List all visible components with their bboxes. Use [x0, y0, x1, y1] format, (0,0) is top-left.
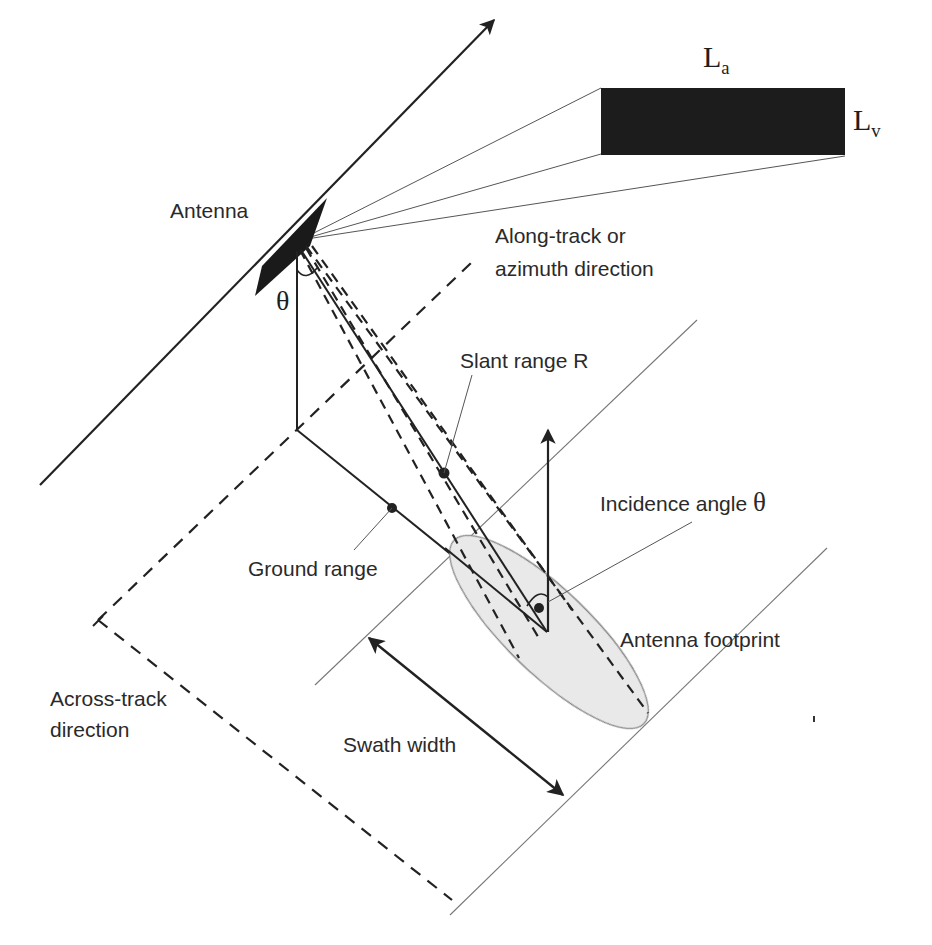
antenna-label: Antenna [170, 198, 248, 223]
ground-range-label: Ground range [248, 556, 378, 581]
look-angle-theta: θ [276, 285, 289, 317]
antenna-length-symbol: L [703, 40, 721, 73]
antenna-panel [601, 88, 845, 155]
across-track-direction-line [93, 616, 452, 900]
ground-range-marker [354, 503, 397, 550]
antenna-length-subscript: a [721, 57, 729, 78]
flight-path-arrow [40, 20, 494, 485]
antenna-height-label: Lv [853, 103, 881, 142]
incidence-angle-label: Incidence angle θ [600, 490, 766, 516]
sar-geometry-diagram [0, 0, 932, 945]
antenna-height-symbol: L [853, 103, 871, 136]
antenna-length-label: La [703, 40, 730, 79]
incidence-angle-text: Incidence angle [600, 492, 753, 515]
swath-width-label: Swath width [343, 732, 456, 757]
incidence-angle-leader [548, 522, 692, 602]
slant-range-marker [439, 375, 473, 479]
across-track-label-line2: direction [50, 717, 129, 742]
slant-range-label: Slant range R [460, 348, 588, 373]
across-track-label-line1: Across-track [50, 686, 167, 711]
along-track-label-line1: Along-track or [495, 223, 626, 248]
along-track-label-line2: azimuth direction [495, 256, 654, 281]
incidence-angle-theta: θ [753, 487, 766, 517]
antenna-footprint-label: Antenna footprint [620, 627, 780, 652]
antenna-height-subscript: v [871, 120, 880, 141]
